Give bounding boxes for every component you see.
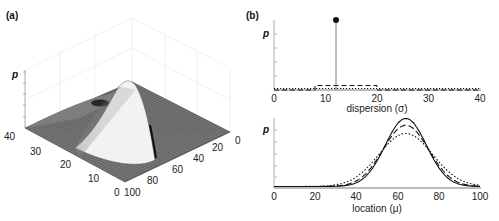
location-x-label: location (μ) bbox=[352, 203, 402, 214]
svg-text:30: 30 bbox=[423, 93, 435, 104]
svg-text:40: 40 bbox=[4, 131, 16, 142]
svg-text:100: 100 bbox=[472, 191, 489, 202]
svg-text:30: 30 bbox=[30, 146, 42, 157]
dispersion-x-label: dispersion (σ) bbox=[346, 103, 407, 114]
svg-text:10: 10 bbox=[88, 173, 100, 184]
z-ticks bbox=[23, 72, 26, 117]
svg-text:80: 80 bbox=[433, 191, 445, 202]
svg-text:0: 0 bbox=[271, 191, 277, 202]
svg-text:60: 60 bbox=[172, 164, 184, 175]
surface-plot: p 40 30 20 10 0 100 80 60 40 20 0 bbox=[4, 18, 241, 198]
svg-text:80: 80 bbox=[147, 175, 159, 186]
surface-z-label: p bbox=[11, 69, 18, 80]
dispersion-point bbox=[333, 17, 339, 23]
dispersion-y-label: p bbox=[262, 28, 269, 39]
svg-text:40: 40 bbox=[350, 191, 362, 202]
svg-text:20: 20 bbox=[60, 159, 72, 170]
location-plot: p 0 20 40 60 80 100 location (μ) bbox=[262, 118, 489, 214]
svg-text:40: 40 bbox=[193, 153, 205, 164]
svg-text:60: 60 bbox=[392, 191, 404, 202]
svg-text:0: 0 bbox=[271, 93, 277, 104]
panel-label-b: (b) bbox=[246, 10, 259, 21]
location-dashed-series bbox=[274, 125, 480, 186]
location-x-ticks: 0 20 40 60 80 100 bbox=[271, 191, 489, 202]
svg-text:40: 40 bbox=[474, 93, 486, 104]
svg-text:0: 0 bbox=[114, 187, 120, 198]
location-y-label: p bbox=[262, 124, 269, 135]
svg-text:100: 100 bbox=[124, 187, 141, 198]
svg-text:20: 20 bbox=[309, 191, 321, 202]
svg-text:10: 10 bbox=[320, 93, 332, 104]
figure: (a) (b) p bbox=[0, 0, 499, 221]
dispersion-plot: p 0 10 20 30 40 dispersion (σ) bbox=[262, 17, 486, 114]
panel-label-a: (a) bbox=[6, 10, 18, 21]
dispersion-dashed-series bbox=[274, 86, 481, 91]
svg-text:0: 0 bbox=[235, 135, 241, 146]
svg-text:20: 20 bbox=[212, 142, 224, 153]
